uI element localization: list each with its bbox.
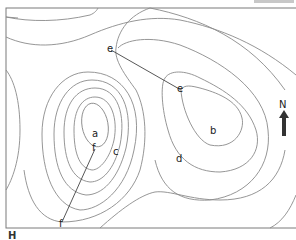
corner-label: H bbox=[8, 230, 16, 240]
contour-line bbox=[181, 86, 243, 146]
north-label: N bbox=[279, 99, 286, 110]
north-arrow-icon bbox=[279, 110, 289, 118]
north-arrow-shaft bbox=[282, 118, 286, 136]
contour-line bbox=[6, 70, 20, 190]
point-label-e1: e bbox=[107, 43, 113, 54]
map-frame bbox=[6, 8, 296, 228]
contour-line bbox=[6, 17, 18, 18]
point-label-a: a bbox=[92, 128, 98, 139]
point-label-e2: e bbox=[177, 83, 183, 94]
contour-line bbox=[6, 8, 98, 21]
point-label-b: b bbox=[210, 125, 216, 136]
cropped-header-text bbox=[254, 0, 294, 3]
section-line-f bbox=[62, 149, 95, 222]
section-line-e bbox=[111, 50, 181, 90]
contour-line bbox=[118, 39, 268, 200]
contour-line bbox=[42, 72, 137, 210]
contour-line bbox=[270, 195, 296, 228]
point-label-f1: f bbox=[92, 142, 96, 153]
contour-line bbox=[100, 150, 285, 228]
contour-line bbox=[24, 8, 150, 222]
contour-map: a b c d e e f f H N bbox=[0, 0, 296, 240]
contour-line bbox=[150, 8, 285, 90]
north-arrow: N bbox=[279, 99, 289, 136]
point-label-f2: f bbox=[59, 218, 63, 229]
point-label-c: c bbox=[113, 146, 119, 157]
contour-line bbox=[6, 18, 296, 75]
point-label-d: d bbox=[176, 153, 182, 164]
